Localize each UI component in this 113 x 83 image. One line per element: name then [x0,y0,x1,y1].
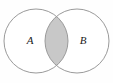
venn-diagram-figure: A B [0,0,113,83]
venn-diagram-canvas: A B [0,0,113,83]
set-a-label: A [26,34,34,46]
set-b-label: B [80,34,87,46]
